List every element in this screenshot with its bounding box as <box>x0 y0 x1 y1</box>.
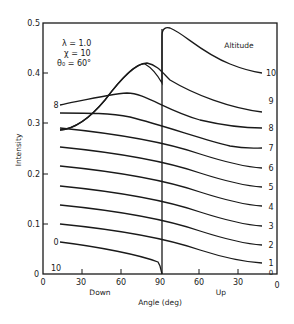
y-tick-label: 0.2 <box>27 170 40 179</box>
x-axis-label: Angle (deg) <box>138 298 182 307</box>
curve-altitude-9 <box>60 63 262 130</box>
curve-altitude-0 <box>60 242 162 274</box>
y-tick-label: 0.5 <box>27 19 40 28</box>
curve-label-right: 6 <box>268 164 273 173</box>
curve-label-left: 10 <box>51 264 61 273</box>
intensity-vs-angle-chart: 0 0.1 0.2 0.3 0.4 0.5 Intensity 0 30 60 … <box>0 0 294 324</box>
curve-label-right: 10 <box>266 69 276 78</box>
y-axis-label: Intensity <box>14 133 23 166</box>
curve-label-right: 1 <box>268 259 273 268</box>
x-tick-label: 0 <box>274 281 279 290</box>
x-axis <box>82 269 238 274</box>
curve-label-left: 0 <box>53 238 58 247</box>
y-axis <box>43 73 48 224</box>
y-tick-label: 0.1 <box>27 220 40 229</box>
x-tick-label: 60 <box>116 278 126 287</box>
x-tick-label: 30 <box>76 278 86 287</box>
legend-title: Altitude <box>224 41 254 50</box>
y-tick-label: 0.4 <box>27 69 40 78</box>
x-label-down: Down <box>89 288 110 297</box>
curve-label-right: 2 <box>268 241 273 250</box>
curve-label-right: 3 <box>268 222 273 231</box>
x-tick-label: 30 <box>233 278 243 287</box>
y-tick-label: 0.3 <box>27 119 40 128</box>
curve-label-right: 8 <box>268 124 273 133</box>
x-label-up: Up <box>216 288 226 297</box>
curve-altitude-1 <box>60 224 262 263</box>
curve-altitude-8 <box>60 93 262 128</box>
curve-label-right: 5 <box>268 183 273 192</box>
curve-label-right: 9 <box>268 97 273 106</box>
x-tick-label: 0 <box>40 278 45 287</box>
x-tick-label: 90 <box>155 278 165 287</box>
curve-label-left: 8 <box>53 101 58 110</box>
curve-label-right: 4 <box>268 203 273 212</box>
y-tick-label: 0 <box>34 270 39 279</box>
param-theta: θ₀ = 60° <box>57 59 91 68</box>
param-chi: χ = 10 <box>64 49 91 58</box>
parameter-box: λ = 1.0 χ = 10 θ₀ = 60° <box>57 39 91 68</box>
curve-label-right: 0 <box>269 269 273 277</box>
curve-altitude-4 <box>60 166 262 206</box>
curve-label-right: 7 <box>268 144 273 153</box>
param-lambda: λ = 1.0 <box>62 39 91 48</box>
x-tick-label: 60 <box>194 278 204 287</box>
